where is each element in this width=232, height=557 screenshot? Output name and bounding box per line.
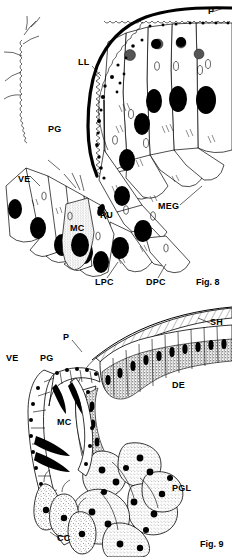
fig9-caption: Fig. 9: [200, 539, 224, 549]
fig9-label-CC: CC: [57, 533, 71, 543]
fig9-label-DE: DE: [172, 380, 185, 390]
fig9-label-SH: SH: [210, 317, 223, 327]
histology-plate: P LL PG VE MEG PU MC LPC DPC Fig. 8: [0, 0, 232, 557]
fig8-label-DPC: DPC: [146, 277, 166, 287]
fig8-label-P: P: [208, 6, 214, 16]
fig8-label-PG: PG: [48, 124, 61, 134]
plate-canvas: P LL PG VE MEG PU MC LPC DPC Fig. 8: [0, 0, 232, 557]
fig9-label-VE: VE: [6, 353, 18, 363]
fig8-label-MEG: MEG: [158, 201, 179, 211]
fig9-label-P: P: [63, 332, 69, 342]
fig8-label-MC: MC: [70, 223, 85, 233]
fig8-caption: Fig. 8: [196, 277, 220, 287]
fig9-label-PGL: PGL: [172, 483, 191, 493]
fig9-label-MC: MC: [57, 417, 72, 427]
fig9-label-PG: PG: [40, 353, 53, 363]
fig8-label-VE: VE: [18, 174, 30, 184]
fig8-label-LPC: LPC: [95, 277, 114, 287]
fig8-label-LL: LL: [78, 57, 90, 67]
fig8-label-PU: PU: [100, 210, 113, 220]
